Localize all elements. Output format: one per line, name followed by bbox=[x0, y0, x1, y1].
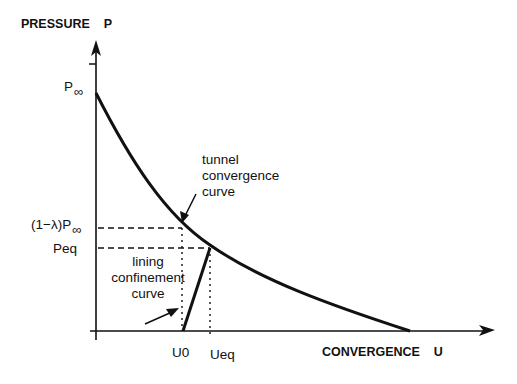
infinity-subscript: ∞ bbox=[74, 84, 83, 99]
lining-label-line: confinement bbox=[102, 270, 194, 286]
u0-label: U0 bbox=[172, 346, 189, 360]
x-axis-label: CONVERGENCE U bbox=[322, 345, 443, 359]
reduced-pressure-label: (1−λ)P∞ bbox=[31, 218, 81, 237]
p-inf-text: P bbox=[64, 79, 73, 94]
reduced-pressure-text: (1−λ)P bbox=[31, 217, 71, 232]
tunnel-convergence-label: tunnel convergence curve bbox=[202, 152, 279, 200]
p-inf-label: P∞ bbox=[64, 80, 83, 99]
y-axis-label: PRESSURE P bbox=[21, 17, 112, 31]
lining-label-line: curve bbox=[102, 286, 194, 302]
tunnel-label-line: curve bbox=[202, 184, 279, 200]
ueq-label: Ueq bbox=[210, 348, 235, 362]
lining-label-line: lining bbox=[102, 254, 194, 270]
lining-annotation-arrow bbox=[145, 312, 172, 324]
lining-confinement-label: lining confinement curve bbox=[102, 254, 194, 302]
tunnel-label-line: convergence bbox=[202, 168, 279, 184]
infinity-subscript: ∞ bbox=[72, 222, 81, 237]
tunnel-label-line: tunnel bbox=[202, 152, 279, 168]
lining-arrowhead-icon bbox=[166, 308, 179, 317]
peq-label: Peq bbox=[53, 242, 77, 256]
